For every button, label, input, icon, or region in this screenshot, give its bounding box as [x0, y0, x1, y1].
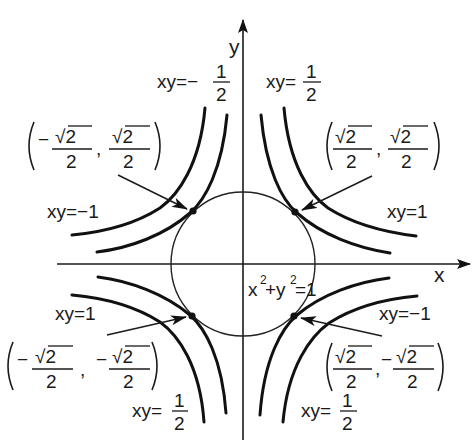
point-lower-right: [290, 312, 297, 319]
label-xy-neg-one-left: xy=−1: [47, 201, 99, 222]
sign: −: [96, 349, 107, 370]
numerator: √2: [112, 126, 133, 147]
comma: ,: [375, 358, 380, 379]
circle-eq-x: x: [248, 279, 258, 300]
numerator: √2: [335, 126, 356, 147]
curve-xy-one-lower-left: [98, 277, 226, 413]
circle-eq-equals-one: =1: [295, 279, 317, 300]
numerator: √2: [396, 346, 417, 367]
numerator: √2: [390, 126, 411, 147]
right-paren: [434, 122, 439, 170]
y-axis-label: y: [229, 35, 240, 58]
label-text: xy=: [301, 400, 331, 421]
label-xy-one-left-lower: xy=1: [55, 303, 96, 324]
circle-equation-label: x 2 +y 2 =1: [248, 273, 317, 300]
arrow-lower-left: [107, 317, 186, 335]
denominator: 2: [346, 151, 357, 172]
left-paren: [29, 122, 34, 170]
right-paren: [152, 342, 157, 390]
label-text: xy=−: [157, 71, 198, 92]
label-text: xy=: [132, 400, 162, 421]
fraction-denominator: 2: [174, 413, 185, 434]
curve-xy-half-upper-right: [261, 115, 390, 253]
denominator: 2: [46, 371, 57, 392]
numerator: √2: [55, 126, 76, 147]
arrow-lower-right: [301, 318, 382, 336]
point-label-upper-left: − √2 2 , √2 2: [29, 122, 160, 172]
point-label-lower-right: √2 2 , − √2 2: [327, 343, 443, 392]
left-paren: [8, 342, 13, 390]
fraction-denominator: 2: [216, 84, 227, 105]
sign: −: [381, 349, 392, 370]
denominator: 2: [346, 371, 357, 392]
comma: ,: [376, 138, 381, 159]
right-paren: [438, 343, 443, 391]
denominator: 2: [401, 151, 412, 172]
pointer-arrows: [107, 175, 382, 336]
point-lower-left: [188, 312, 195, 319]
fraction-numerator: 1: [216, 61, 227, 82]
denominator: 2: [66, 151, 77, 172]
denominator: 2: [407, 371, 418, 392]
point-label-upper-right: √2 2 , √2 2: [327, 122, 439, 172]
sign: −: [17, 349, 28, 370]
point-upper-right: [291, 208, 298, 215]
comma: ,: [80, 359, 85, 380]
label-text: xy=: [266, 71, 296, 92]
circle-eq-plus-y: +y: [265, 279, 286, 300]
fraction-numerator: 1: [342, 390, 353, 411]
comma: ,: [96, 138, 101, 159]
label-xy-half-bottom-left: xy= 1 2: [132, 390, 188, 434]
point-upper-left: [189, 207, 196, 214]
left-paren: [327, 122, 332, 170]
denominator: 2: [123, 151, 134, 172]
label-xy-half-bottom-right: xy= 1 2: [301, 390, 357, 434]
numerator: √2: [112, 346, 133, 367]
point-label-lower-left: − √2 2 , − √2 2: [8, 342, 157, 392]
label-xy-neg-one-right-lower: xy=−1: [379, 303, 431, 324]
x-axis-label: x: [434, 263, 445, 286]
right-paren: [155, 122, 160, 170]
label-xy-one-right: xy=1: [387, 201, 428, 222]
left-paren: [327, 343, 332, 391]
numerator: √2: [335, 346, 356, 367]
hyperbola-labels: xy=− 1 2 xy= 1 2 xy=−1 xy=1 xy=1 xy=−1 x…: [47, 61, 431, 434]
label-xy-half-top: xy= 1 2: [266, 61, 321, 105]
sign: −: [38, 129, 49, 150]
fraction-denominator: 2: [306, 84, 317, 105]
denominator: 2: [123, 371, 134, 392]
fraction-numerator: 1: [174, 390, 185, 411]
numerator: √2: [35, 346, 56, 367]
fraction-numerator: 1: [306, 61, 317, 82]
fraction-denominator: 2: [342, 413, 353, 434]
label-xy-neg-half-top: xy=− 1 2: [157, 61, 230, 105]
hyperbola-circle-diagram: x y xy=− 1 2: [0, 0, 473, 446]
